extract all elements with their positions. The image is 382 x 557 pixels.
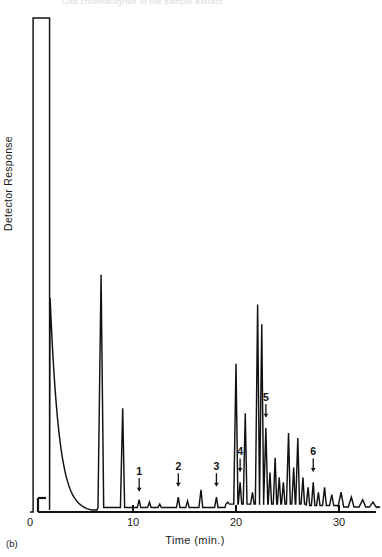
peak-label-1: 1 [132,465,146,477]
peak-label-6: 6 [306,445,320,457]
x-tick-label-30: 30 [327,516,351,528]
x-tick-label-0: 0 [18,516,42,528]
peak-label-3: 3 [209,460,223,472]
panel-label: (b) [6,538,18,549]
x-axis-label: Time (min.) [120,534,270,546]
figure-top-caption: Gas chromatogram of the sample extract [62,0,322,7]
chromatogram-figure: Gas chromatogram of the sample extract D… [0,0,382,557]
x-tick-label-20: 20 [224,516,248,528]
peak-label-2: 2 [171,460,185,472]
peak-label-4: 4 [233,445,247,457]
chromatogram-plot-area [0,0,382,557]
peak-label-5: 5 [259,391,273,403]
y-axis-label: Detector Response [2,111,18,231]
x-tick-label-10: 10 [121,516,145,528]
